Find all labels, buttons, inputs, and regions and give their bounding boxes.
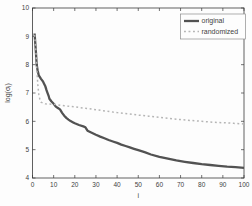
y-axis-label: log(σi) bbox=[4, 83, 13, 102]
x-tick-label: 30 bbox=[92, 181, 100, 188]
y-tick-label: 7 bbox=[25, 89, 29, 96]
x-tick-label: 70 bbox=[177, 181, 185, 188]
x-tick-label: 20 bbox=[71, 181, 79, 188]
y-tick-label: 5 bbox=[25, 146, 29, 153]
x-tick-label: 90 bbox=[219, 181, 227, 188]
x-tick-label: 10 bbox=[50, 181, 58, 188]
legend-label: randomized bbox=[202, 28, 239, 35]
y-tick-label: 9 bbox=[25, 33, 29, 40]
x-tick-label: 60 bbox=[156, 181, 164, 188]
x-tick-label: 100 bbox=[239, 181, 250, 188]
x-tick-label: 0 bbox=[31, 181, 35, 188]
x-axis-label: i bbox=[137, 192, 139, 199]
x-tick-label: 80 bbox=[198, 181, 206, 188]
x-tick-label: 40 bbox=[113, 181, 121, 188]
y-tick-label: 10 bbox=[22, 4, 30, 11]
y-tick-label: 8 bbox=[25, 61, 29, 68]
x-tick-label: 50 bbox=[135, 181, 143, 188]
legend-label: original bbox=[202, 17, 225, 25]
chart-canvas: 010203040506070809010045678910ilog(σi)or… bbox=[0, 0, 252, 206]
y-tick-label: 4 bbox=[25, 174, 29, 181]
y-tick-label: 6 bbox=[25, 118, 29, 125]
figure: 010203040506070809010045678910ilog(σi)or… bbox=[0, 0, 252, 206]
